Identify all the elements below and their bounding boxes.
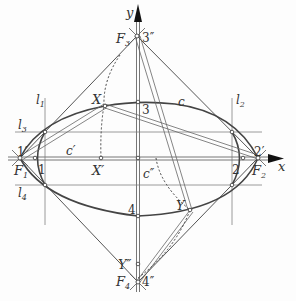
y-axis-label: y (125, 5, 134, 20)
point-4-label: 4 (128, 203, 136, 217)
point-X-label: X (91, 92, 102, 107)
line-l1-label: l1 (36, 93, 45, 109)
focus-F2-label: F2 (251, 163, 266, 180)
point-2p-label: 2′ (254, 145, 265, 159)
x-axis-label: x (278, 159, 286, 174)
point-2-label: 2 (232, 163, 240, 177)
point-3pp-label: 3″ (142, 31, 155, 45)
line-l2-label: l2 (236, 93, 245, 109)
guide-lines (15, 98, 262, 225)
focus-F3-label: F3 (115, 31, 130, 48)
y-axis-arrow-icon (134, 4, 142, 22)
point-1p-label: 1′ (17, 145, 28, 159)
ellipse-construction-diagram: x y F3 3″ F1 F2 F4 4″ l1 l2 l3 l4 c c′ c… (0, 0, 296, 301)
point-1-label: 1 (38, 163, 46, 177)
point-4pp-label: 4″ (142, 275, 155, 289)
point-Ypp-label: Y″ (118, 257, 132, 272)
focus-F1-label: F1 (13, 163, 28, 180)
line-l4-label: l4 (18, 186, 27, 202)
point-Xp-label: X′ (91, 163, 104, 178)
diagram-canvas: x y F3 3″ F1 F2 F4 4″ l1 l2 l3 l4 c c′ c… (0, 0, 296, 301)
point-Y-label: Y (176, 198, 186, 213)
curve-c-label: c (178, 95, 185, 109)
focus-F4-label: F4 (115, 274, 130, 291)
line-l3-label: l3 (18, 118, 27, 134)
curve-c-double-label: c″ (143, 167, 155, 181)
curve-c-prime-label: c′ (66, 144, 76, 158)
point-3-label: 3 (142, 103, 150, 117)
